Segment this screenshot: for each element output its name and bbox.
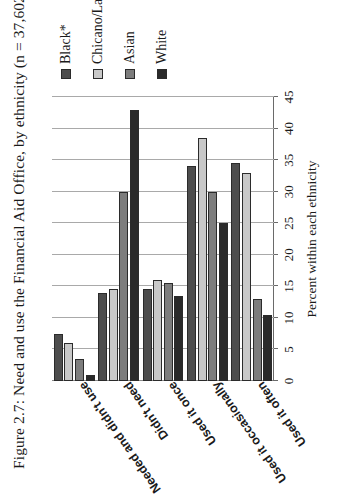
legend-swatch-icon	[125, 69, 135, 79]
bar-group	[230, 97, 274, 381]
bar	[187, 166, 196, 381]
axis-tick-label: 30	[281, 177, 297, 207]
axis-tick-label: 15	[281, 271, 297, 301]
bar	[174, 296, 183, 381]
category-label: Didn't need	[121, 379, 171, 442]
axis-tick-label: 0	[281, 366, 297, 396]
legend-label: White	[154, 30, 170, 64]
bar	[98, 293, 107, 381]
bar	[242, 173, 251, 381]
legend-swatch-icon	[93, 69, 103, 79]
axis-tick-label: 20	[281, 240, 297, 270]
bar	[164, 283, 173, 381]
bar	[109, 290, 118, 382]
legend-label: Chicano/Latino	[90, 0, 106, 64]
bar	[119, 192, 128, 381]
bar	[263, 315, 272, 381]
value-axis-title: Percent within each ethnicity	[304, 160, 320, 317]
axis-tick	[274, 254, 278, 255]
bar	[208, 192, 217, 381]
category-label: Used it occasionally	[209, 379, 289, 485]
axis-tick	[274, 348, 278, 349]
legend-label: Asian	[122, 31, 138, 64]
bar	[54, 334, 63, 381]
bar-group	[185, 97, 229, 381]
bar	[198, 138, 207, 381]
legend-item: Asian	[122, 0, 138, 79]
chart-plot-area	[52, 97, 274, 381]
axis-tick-label: 25	[281, 208, 297, 238]
bar	[219, 223, 228, 381]
bar-group	[96, 97, 140, 381]
axis-tick-label: 10	[281, 303, 297, 333]
bar	[130, 110, 139, 381]
legend-item: Chicano/Latino	[90, 0, 106, 79]
legend-label: Black*	[58, 24, 74, 64]
axis-tick	[274, 380, 278, 381]
category-label: Needed and didn't use	[76, 379, 164, 496]
bar	[64, 343, 73, 381]
axis-tick	[274, 159, 278, 160]
axis-tick	[274, 222, 278, 223]
axis-tick	[274, 317, 278, 318]
chart-legend: Black*Chicano/LatinoAsianWhite	[58, 0, 186, 79]
axis-tick	[274, 285, 278, 286]
axis-tick-label: 40	[281, 114, 297, 144]
bar	[253, 299, 262, 381]
axis-tick-label: 5	[281, 334, 297, 364]
bar-group	[52, 97, 96, 381]
bar	[231, 163, 240, 381]
legend-swatch-icon	[157, 69, 167, 79]
axis-tick	[274, 191, 278, 192]
bar	[75, 359, 84, 381]
figure-title: Figure 2.7: Need and use the Financial A…	[10, 0, 28, 469]
bar	[143, 290, 152, 382]
bar	[153, 280, 162, 381]
legend-swatch-icon	[61, 69, 71, 79]
axis-tick-label: 35	[281, 145, 297, 175]
axis-tick	[274, 128, 278, 129]
legend-item: Black*	[58, 0, 74, 79]
axis-tick	[274, 96, 278, 97]
axis-tick-label: 45	[281, 82, 297, 112]
legend-item: White	[154, 0, 170, 79]
bar-group	[141, 97, 185, 381]
